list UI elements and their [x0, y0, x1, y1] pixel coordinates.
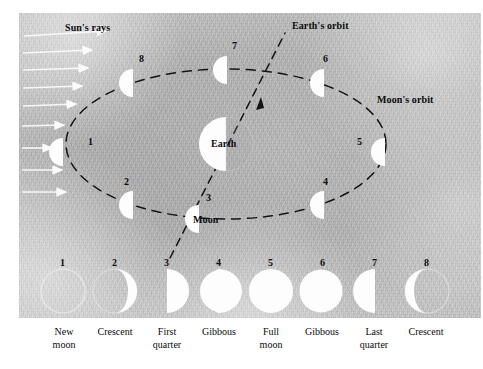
- moon-phases-diagram: Sun's rays Earth's orbit Moon's orbit Ea…: [0, 0, 483, 369]
- phase-disc-last-quarter: [353, 269, 375, 313]
- phase-disc-full: [249, 269, 293, 313]
- orbit-moon-1: [49, 138, 63, 166]
- phase-number-2: 2: [112, 258, 117, 269]
- earth-label: Earth: [211, 139, 237, 150]
- orbit-number-4: 4: [323, 177, 328, 188]
- phase-number-8: 8: [424, 258, 429, 269]
- phase-disc-waxing-crescent: [93, 269, 137, 313]
- orbit-moon-7: [213, 56, 227, 84]
- phase-number-5: 5: [268, 258, 273, 269]
- orbit-moon-5: [371, 138, 385, 166]
- phase-disc-waxing-gibbous: [200, 269, 242, 313]
- orbit-moon-8: [119, 69, 133, 97]
- orbit-number-3: 3: [206, 193, 211, 204]
- earths-orbit-label: Earth's orbit: [292, 21, 349, 32]
- orbit-moon-6: [310, 69, 324, 97]
- earths-orbit-arrowhead: [256, 97, 264, 110]
- moon-label: Moon: [193, 215, 218, 226]
- phase-disc-waning-gibbous: [300, 270, 343, 313]
- orbit-number-6: 6: [323, 54, 328, 65]
- phase-row-discs: [41, 269, 449, 313]
- phase-disc-waning-crescent: [405, 269, 449, 313]
- orbit-number-2: 2: [124, 177, 129, 188]
- phase-number-4: 4: [216, 258, 221, 269]
- phase-number-6: 6: [320, 258, 325, 269]
- phase-disc-new: [41, 269, 85, 313]
- suns-rays-label: Sun's rays: [65, 23, 110, 34]
- phase-disc-first-quarter: [167, 269, 189, 313]
- orbit-moon-4: [310, 191, 324, 219]
- phase-number-1: 1: [60, 258, 65, 269]
- phase-number-3: 3: [164, 258, 169, 269]
- suns-rays-arrows: [22, 31, 106, 192]
- orbit-number-1: 1: [88, 137, 93, 148]
- phase-name-8: Crescent: [390, 326, 462, 339]
- orbit-number-7: 7: [232, 41, 237, 52]
- diagram-vector-layer: [0, 0, 483, 369]
- orbit-moon-2: [119, 191, 133, 219]
- phase-number-7: 7: [372, 258, 377, 269]
- moons-orbit-label: Moon's orbit: [377, 95, 433, 106]
- orbit-number-8: 8: [139, 54, 144, 65]
- orbit-number-5: 5: [357, 137, 362, 148]
